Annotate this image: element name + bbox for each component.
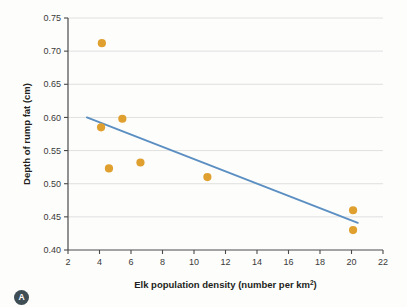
- x-axis-tick-label: 20: [346, 257, 356, 267]
- panel-label-badge: A: [14, 290, 29, 305]
- y-axis-tick-label: 0.55: [43, 146, 61, 156]
- scatter-plot: 0.400.450.500.550.600.650.700.7524681012…: [0, 0, 407, 307]
- figure-panel: 0.400.450.500.550.600.650.700.7524681012…: [0, 0, 407, 307]
- x-axis-tick-label: 22: [378, 257, 388, 267]
- data-point[interactable]: [136, 158, 144, 166]
- y-axis-tick-label: 0.40: [43, 245, 61, 255]
- y-axis-tick-label: 0.65: [43, 79, 61, 89]
- data-point[interactable]: [203, 173, 211, 181]
- x-axis-tick-label: 16: [283, 257, 293, 267]
- x-axis-title: Elk population density (number per km2): [134, 279, 317, 291]
- data-point[interactable]: [349, 226, 357, 234]
- y-axis-tick-label: 0.75: [43, 13, 61, 23]
- x-axis-tick-label: 18: [315, 257, 325, 267]
- y-axis-tick-label: 0.70: [43, 46, 61, 56]
- x-axis-tick-label: 8: [160, 257, 165, 267]
- y-axis-tick-label: 0.50: [43, 179, 61, 189]
- data-point[interactable]: [105, 164, 113, 172]
- x-axis-tick-label: 6: [128, 257, 133, 267]
- trend-line: [87, 117, 358, 222]
- data-point[interactable]: [349, 206, 357, 214]
- y-axis-tick-label: 0.45: [43, 212, 61, 222]
- x-axis-tick-label: 4: [97, 257, 102, 267]
- data-point[interactable]: [97, 123, 105, 131]
- y-axis-tick-label: 0.60: [43, 113, 61, 123]
- data-point[interactable]: [118, 115, 126, 123]
- x-axis-tick-label: 12: [220, 257, 230, 267]
- x-axis-tick-label: 10: [189, 257, 199, 267]
- y-axis-title: Depth of rump fat (cm): [21, 83, 32, 185]
- x-axis-tick-label: 2: [65, 257, 70, 267]
- data-point[interactable]: [98, 39, 106, 47]
- x-axis-tick-label: 14: [252, 257, 262, 267]
